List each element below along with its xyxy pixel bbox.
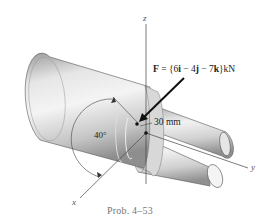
figure-caption: Prob. 4–53 [107, 205, 153, 216]
shaft-diagram [0, 0, 272, 224]
radius-dimension-label: 30 mm [154, 117, 181, 127]
y-axis-label: y [251, 162, 255, 172]
force-vector-label: F = {6i − 4j − 7k}kN [153, 64, 235, 74]
x-axis-label: x [72, 197, 76, 207]
origin-point [144, 131, 148, 135]
force-application-point [135, 122, 139, 126]
z-axis-label: z [143, 13, 147, 23]
angle-label: 40° [94, 130, 107, 140]
